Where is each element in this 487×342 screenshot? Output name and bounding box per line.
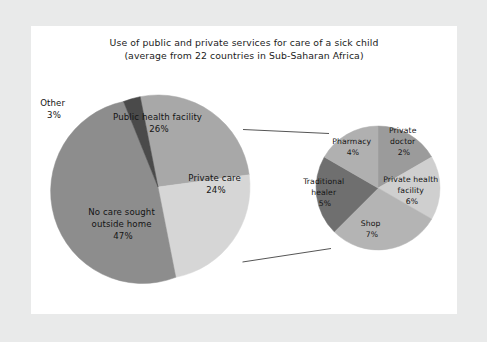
sub-label-private-doctor-line-2: doctor xyxy=(390,137,416,146)
main-label-private-care-value: 24% xyxy=(206,185,225,195)
main-label-other: Other 3% xyxy=(40,98,68,120)
connector-line-top xyxy=(243,130,329,134)
connector-line-bottom xyxy=(243,249,332,263)
sub-label-private-doctor-line-1: Private xyxy=(389,126,417,135)
sub-label-traditional-healer-value: 5% xyxy=(319,199,331,208)
pie-chart-graphic: Public health facility 26% Private care … xyxy=(0,0,487,342)
main-label-public-health-facility-value: 26% xyxy=(149,124,168,134)
sub-label-shop-value: 7% xyxy=(366,230,378,239)
sub-label-pharmacy-text: Pharmacy xyxy=(332,137,371,146)
sub-label-traditional-healer-line-2: healer xyxy=(311,188,337,197)
sub-label-private-doctor-value: 2% xyxy=(398,148,410,157)
sub-label-pharmacy-value: 4% xyxy=(347,148,359,157)
main-label-no-care-sought-line-2: outside home xyxy=(92,219,152,229)
sub-label-private-health-facility-value: 6% xyxy=(406,197,418,206)
sub-label-private-health-facility-line-2: facility xyxy=(398,186,425,195)
main-label-other-value: 3% xyxy=(47,110,61,120)
sub-label-traditional-healer-line-1: Traditional xyxy=(302,177,344,186)
main-label-other-text: Other xyxy=(40,98,65,108)
main-label-private-care-text: Private care xyxy=(188,173,241,183)
main-label-no-care-sought-line-1: No care sought xyxy=(88,207,155,217)
sub-label-private-health-facility-line-1: Private health xyxy=(383,175,438,184)
sub-label-shop-text: Shop xyxy=(361,219,381,228)
main-label-no-care-sought-value: 47% xyxy=(113,231,132,241)
main-label-public-health-facility-text: Public health facility xyxy=(113,112,202,122)
figure-root: Use of public and private services for c… xyxy=(0,0,487,342)
